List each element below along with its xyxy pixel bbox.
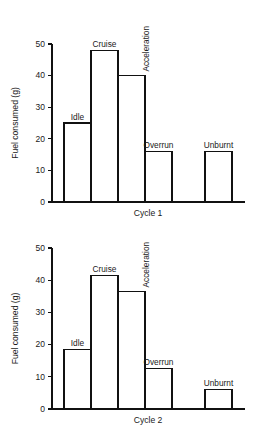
plot-area-cycle-2: 01020304050Fuel consumed (g)IdleCruiseAc… xyxy=(0,215,259,433)
bar-unburnt xyxy=(205,151,232,202)
y-axis-tick-label: 50 xyxy=(36,243,46,253)
y-axis-title: Fuel consumed (g) xyxy=(10,87,20,159)
y-axis-tick-label: 30 xyxy=(36,307,46,317)
bar-acceleration xyxy=(118,76,145,202)
bar-chart-svg-cycle-2: 01020304050Fuel consumed (g)IdleCruiseAc… xyxy=(0,215,259,433)
y-axis-title: Fuel consumed (g) xyxy=(10,293,20,365)
y-axis-tick-label: 30 xyxy=(36,102,46,112)
bar-chart-svg-cycle-1: 01020304050Fuel consumed (g)IdleCruiseAc… xyxy=(0,0,259,218)
x-axis-title: Cycle 2 xyxy=(134,415,163,425)
y-axis-tick-label: 40 xyxy=(36,275,46,285)
chart-cycle-2: 01020304050Fuel consumed (g)IdleCruiseAc… xyxy=(0,215,259,433)
y-axis-tick-label: 40 xyxy=(36,70,46,80)
bar-label-overrun: Overrun xyxy=(144,357,174,367)
bar-label-cruise: Cruise xyxy=(93,264,117,274)
bar-cruise xyxy=(91,275,118,409)
bar-label-idle: Idle xyxy=(71,112,85,122)
bar-label-unburnt: Unburnt xyxy=(204,140,234,150)
bar-cruise xyxy=(91,50,118,202)
y-axis-tick-label: 20 xyxy=(36,339,46,349)
bar-label-acceleration: Acceleration xyxy=(141,241,151,287)
y-axis-tick-label: 0 xyxy=(40,404,45,414)
bar-overrun xyxy=(145,151,172,202)
bar-label-cruise: Cruise xyxy=(93,39,117,49)
y-axis-tick-label: 10 xyxy=(36,165,46,175)
y-axis-tick-label: 50 xyxy=(36,39,46,49)
bar-label-unburnt: Unburnt xyxy=(204,378,234,388)
y-axis-tick-label: 10 xyxy=(36,372,46,382)
bar-unburnt xyxy=(205,390,232,409)
y-axis-tick-label: 0 xyxy=(40,197,45,207)
bar-label-overrun: Overrun xyxy=(144,140,174,150)
bar-label-acceleration: Acceleration xyxy=(141,26,151,72)
y-axis-tick-label: 20 xyxy=(36,134,46,144)
bar-label-idle: Idle xyxy=(71,338,85,348)
bar-overrun xyxy=(145,369,172,409)
plot-area-cycle-1: 01020304050Fuel consumed (g)IdleCruiseAc… xyxy=(0,0,259,218)
bar-acceleration xyxy=(118,291,145,409)
bar-idle xyxy=(64,123,91,202)
bar-idle xyxy=(64,349,91,409)
figure-root: 01020304050Fuel consumed (g)IdleCruiseAc… xyxy=(0,0,259,433)
chart-cycle-1: 01020304050Fuel consumed (g)IdleCruiseAc… xyxy=(0,0,259,218)
